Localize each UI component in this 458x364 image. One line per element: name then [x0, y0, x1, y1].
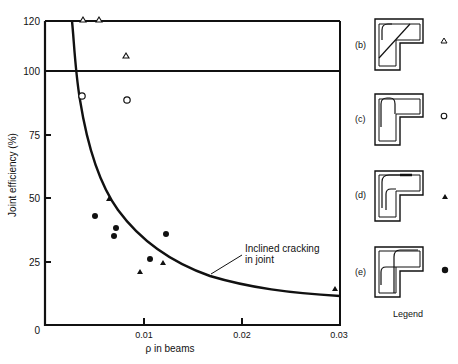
y-tick-100: 100 [23, 66, 40, 77]
legend-title: Legend [393, 309, 423, 319]
legend-marker-open-triangle [441, 38, 447, 43]
joint-detail-c-icon [375, 94, 423, 145]
open-triangle-marker [96, 17, 102, 22]
legend-label-b: (b) [355, 40, 366, 50]
legend-marker-filled-circle [442, 267, 448, 273]
joint-detail-e-icon [375, 247, 423, 297]
filled-circle-marker [113, 225, 119, 231]
inclined-cracking-curve [72, 21, 340, 296]
curve-label-line2: in joint [245, 254, 274, 265]
filled-circle-marker [147, 256, 153, 262]
y-axis-label: Joint efficiency (%) [7, 133, 18, 217]
legend-marker-open-circle [441, 113, 447, 119]
curve-label-line1: Inclined cracking [245, 243, 319, 254]
y-tick-50: 50 [29, 193, 41, 204]
chart: 120 100 75 50 25 0 0.01 0.02 0.03 ρ in b… [0, 0, 458, 364]
y-tick-75: 75 [29, 130, 41, 141]
joint-detail-b-icon [375, 19, 423, 70]
axes [44, 21, 340, 326]
series-b-points [80, 17, 129, 58]
filled-triangle-marker [332, 286, 338, 291]
open-circle-marker [79, 93, 85, 99]
annotation-leader-line [211, 255, 242, 274]
legend-marker-filled-triangle [442, 194, 448, 199]
joint-detail-d-icon [375, 171, 423, 221]
filled-circle-marker [111, 233, 117, 239]
y-tick-120: 120 [23, 16, 40, 27]
series-e-points [92, 213, 169, 262]
open-triangle-marker [123, 53, 129, 58]
filled-circle-marker [163, 231, 169, 237]
x-axis-label: ρ in beams [145, 343, 194, 354]
x-tick-0.03: 0.03 [330, 330, 348, 340]
y-tick-25: 25 [29, 257, 41, 268]
legend-label-c: (c) [355, 114, 366, 124]
filled-circle-marker [92, 213, 98, 219]
filled-triangle-marker [137, 269, 143, 274]
legend-label-e: (e) [355, 267, 366, 277]
series-c-points [79, 93, 130, 103]
legend: (b) (c) (d) (e) [355, 19, 448, 319]
legend-label-d: (d) [355, 190, 366, 200]
x-tick-0.01: 0.01 [135, 330, 153, 340]
origin-label: 0 [34, 325, 40, 336]
open-circle-marker [124, 97, 130, 103]
x-tick-0.02: 0.02 [233, 330, 251, 340]
open-triangle-marker [80, 17, 86, 22]
filled-triangle-marker [160, 260, 166, 265]
